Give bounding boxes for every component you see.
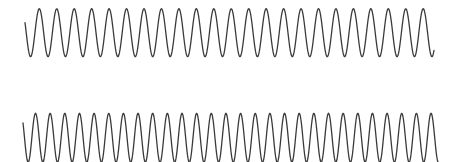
figure: [0, 0, 456, 162]
plot-canvas: [0, 0, 456, 162]
bottom-sine-wave-line: [23, 113, 438, 162]
top-sine-wave-line: [25, 9, 434, 57]
